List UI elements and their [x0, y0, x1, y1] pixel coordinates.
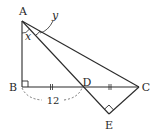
segment-ec: [109, 87, 139, 114]
point-label-e: E: [105, 119, 113, 132]
right-angle-mark-e: [105, 105, 114, 110]
angle-label-x: x: [25, 30, 32, 43]
measurement-arc-bd: [22, 88, 42, 100]
measurement-label-bd: 12: [47, 95, 60, 106]
geometry-diagram: 12 A B D C E x y: [0, 0, 156, 136]
angle-pointer-y: [40, 21, 53, 33]
segments: [22, 21, 139, 114]
point-label-d: D: [83, 76, 92, 89]
point-label-a: A: [18, 5, 28, 18]
measurement-arc-bd-right: [64, 88, 82, 100]
right-angle-mark-b: [22, 81, 28, 87]
angle-label-y: y: [51, 9, 59, 22]
point-label-b: B: [9, 81, 17, 94]
angle-arc-y: [36, 31, 40, 35]
point-label-c: C: [142, 81, 150, 94]
